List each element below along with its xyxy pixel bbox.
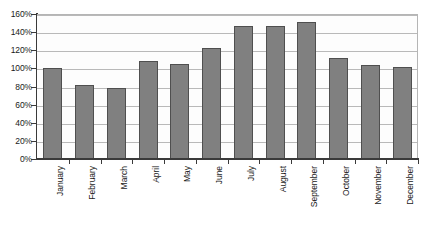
bar: [107, 88, 126, 159]
x-tick-mark: [291, 159, 292, 164]
x-tick-label: October: [342, 166, 351, 196]
x-tick-mark: [164, 159, 165, 164]
x-tick-mark: [132, 159, 133, 164]
y-tick-mark: [31, 14, 36, 15]
x-tick-mark: [259, 159, 260, 164]
y-tick-label: 40%: [15, 119, 32, 128]
bar: [202, 48, 221, 159]
y-tick-mark: [31, 141, 36, 142]
bars-layer: [37, 14, 418, 159]
x-tick-label: November: [374, 166, 383, 205]
bar: [266, 26, 285, 159]
x-tick-mark: [355, 159, 356, 164]
y-tick-label: 80%: [15, 82, 32, 91]
x-tick-label: March: [120, 166, 129, 189]
bar: [170, 64, 189, 159]
bar: [234, 26, 253, 159]
bar-chart: 160%140%120%100%80%60%40%20%0% JanuaryFe…: [0, 0, 426, 230]
bar: [297, 22, 316, 159]
y-tick-label: 160%: [11, 10, 32, 19]
bar: [329, 58, 348, 160]
y-axis: 160%140%120%100%80%60%40%20%0%: [0, 0, 36, 230]
x-axis: JanuaryFebruaryMarchAprilMayJuneJulyAugu…: [37, 166, 418, 230]
y-tick-mark: [31, 87, 36, 88]
x-tick-label: August: [279, 166, 288, 192]
x-tick-label: June: [215, 166, 224, 184]
x-tick-label: January: [56, 166, 65, 196]
y-tick-mark: [31, 68, 36, 69]
x-tick-mark: [101, 159, 102, 164]
x-tick-label: April: [152, 166, 161, 183]
x-tick-label: September: [310, 166, 319, 207]
bar: [43, 68, 62, 159]
x-tick-label: February: [88, 166, 97, 200]
x-tick-mark: [228, 159, 229, 164]
bar: [139, 61, 158, 159]
bar: [393, 67, 412, 159]
y-tick-mark: [31, 50, 36, 51]
x-tick-mark: [69, 159, 70, 164]
x-tick-mark: [323, 159, 324, 164]
y-tick-label: 100%: [11, 64, 32, 73]
bar: [361, 65, 380, 159]
y-tick-mark: [31, 32, 36, 33]
x-tick-label: December: [406, 166, 415, 205]
x-tick-label: July: [247, 166, 256, 181]
y-tick-label: 20%: [15, 137, 32, 146]
bar: [75, 85, 94, 159]
x-tick-label: May: [183, 166, 192, 182]
y-tick-label: 140%: [11, 28, 32, 37]
x-tick-mark: [418, 159, 419, 164]
x-tick-mark: [386, 159, 387, 164]
x-tick-mark: [196, 159, 197, 164]
y-tick-mark: [31, 159, 36, 160]
y-tick-mark: [31, 123, 36, 124]
y-tick-mark: [31, 105, 36, 106]
y-tick-label: 120%: [11, 46, 32, 55]
y-tick-label: 60%: [15, 100, 32, 109]
